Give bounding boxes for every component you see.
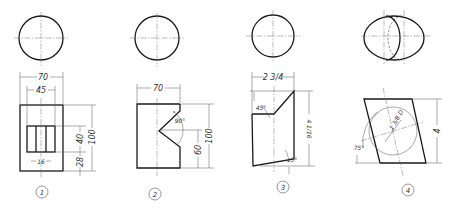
- fig1-top-view: [14, 12, 68, 66]
- fig2-dim-100: 100: [205, 128, 214, 143]
- fig3-dimensions: 2 3/4 45° 4 1/16 15°: [250, 72, 315, 174]
- fig4-top-view: [361, 10, 432, 64]
- fig2-top-view: [130, 13, 184, 67]
- svg-text:2: 2: [153, 191, 158, 199]
- fig2-dim-70: 70: [153, 84, 163, 93]
- fig3-dim-width: 2 3/4: [263, 73, 284, 82]
- fig3-dim-height: 4 1/16: [306, 119, 313, 138]
- fig2-dim-60: 60: [194, 145, 203, 155]
- fig1-dim-100: 100: [88, 129, 97, 144]
- svg-text:1: 1: [40, 189, 44, 197]
- fig1-dim-45: 45: [36, 86, 46, 95]
- drawing-sheet: 70 45 16 40 28 100: [0, 0, 455, 210]
- fig3-label: 3: [277, 181, 289, 193]
- fig3-dim-15deg: 15°: [287, 156, 298, 163]
- svg-text:3: 3: [281, 184, 285, 192]
- figure-3: 2 3/4 45° 4 1/16 15° 3: [246, 10, 315, 193]
- fig2-label: 2: [149, 188, 161, 200]
- fig3-top-view: [246, 10, 300, 63]
- fig3-dim-45deg: 45°: [256, 104, 267, 111]
- fig4-dim-diameter: 1 3/8 D: [387, 108, 404, 131]
- fig1-dim-70: 70: [38, 73, 48, 82]
- fig1-dimensions: 70 45 16 40 28 100: [20, 72, 97, 176]
- fig2-dim-90deg: 90°: [175, 117, 186, 124]
- fig1-label: 1: [36, 186, 48, 198]
- fig4-dim-height: 4: [433, 128, 442, 133]
- figure-4: 1 3/8 D 75° 4 4: [354, 10, 442, 196]
- fig2-front-view: [137, 98, 183, 176]
- figure-1: 70 45 16 40 28 100: [14, 12, 97, 198]
- figure-2: 70 90° 60 100 2: [130, 13, 214, 200]
- fig1-dim-40: 40: [76, 134, 85, 144]
- fig1-front-view: [20, 98, 63, 178]
- fig4-label: 4: [402, 184, 414, 196]
- fig1-dim-16: 16: [37, 158, 45, 165]
- fig2-dimensions: 70 90° 60 100: [137, 84, 214, 168]
- svg-text:4: 4: [406, 187, 410, 195]
- fig4-dim-75deg: 75°: [354, 144, 365, 151]
- fig1-dim-28: 28: [76, 157, 85, 167]
